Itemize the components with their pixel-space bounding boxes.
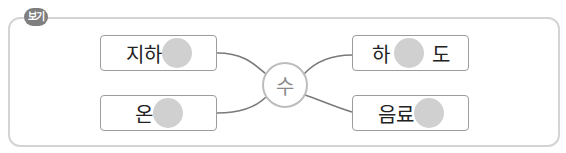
blank-circle-icon (414, 98, 444, 128)
word-text: 하 (372, 39, 390, 68)
word-box-eumryo: 음료 (352, 95, 469, 131)
blank-circle-icon (153, 98, 183, 128)
blank-circle-icon (394, 38, 424, 68)
center-syllable: 수 (276, 71, 294, 100)
word-text-after: 도 (432, 39, 450, 68)
word-box-jiha: 지하 (100, 35, 217, 71)
word-box-on: 온 (100, 95, 217, 131)
blank-circle-icon (162, 38, 192, 68)
word-box-hado: 하 도 (352, 35, 469, 71)
word-text: 음료 (378, 99, 414, 128)
word-text: 온 (135, 99, 153, 128)
word-text: 지하 (126, 39, 162, 68)
center-syllable-circle: 수 (262, 62, 308, 108)
